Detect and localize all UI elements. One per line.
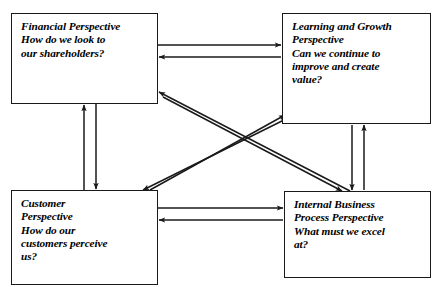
customer-perspective-box[interactable]: Customer Perspective How do our customer…	[11, 190, 158, 285]
financial-perspective-box[interactable]: Financial Perspective How do we look to …	[11, 13, 158, 104]
internal-business-process-perspective-box[interactable]: Internal Business Process Perspective Wh…	[284, 191, 431, 278]
balanced-scorecard-diagram: Financial Perspective How do we look to …	[0, 0, 441, 287]
learning-and-growth-perspective-text: Learning and Growth Perspective Can we c…	[292, 20, 423, 86]
internal-business-process-perspective-text: Internal Business Process Perspective Wh…	[294, 198, 423, 251]
learning-and-growth-perspective-box[interactable]: Learning and Growth Perspective Can we c…	[282, 13, 431, 124]
financial-perspective-text: Financial Perspective How do we look to …	[21, 20, 150, 60]
customer-perspective-text: Customer Perspective How do our customer…	[21, 197, 150, 263]
